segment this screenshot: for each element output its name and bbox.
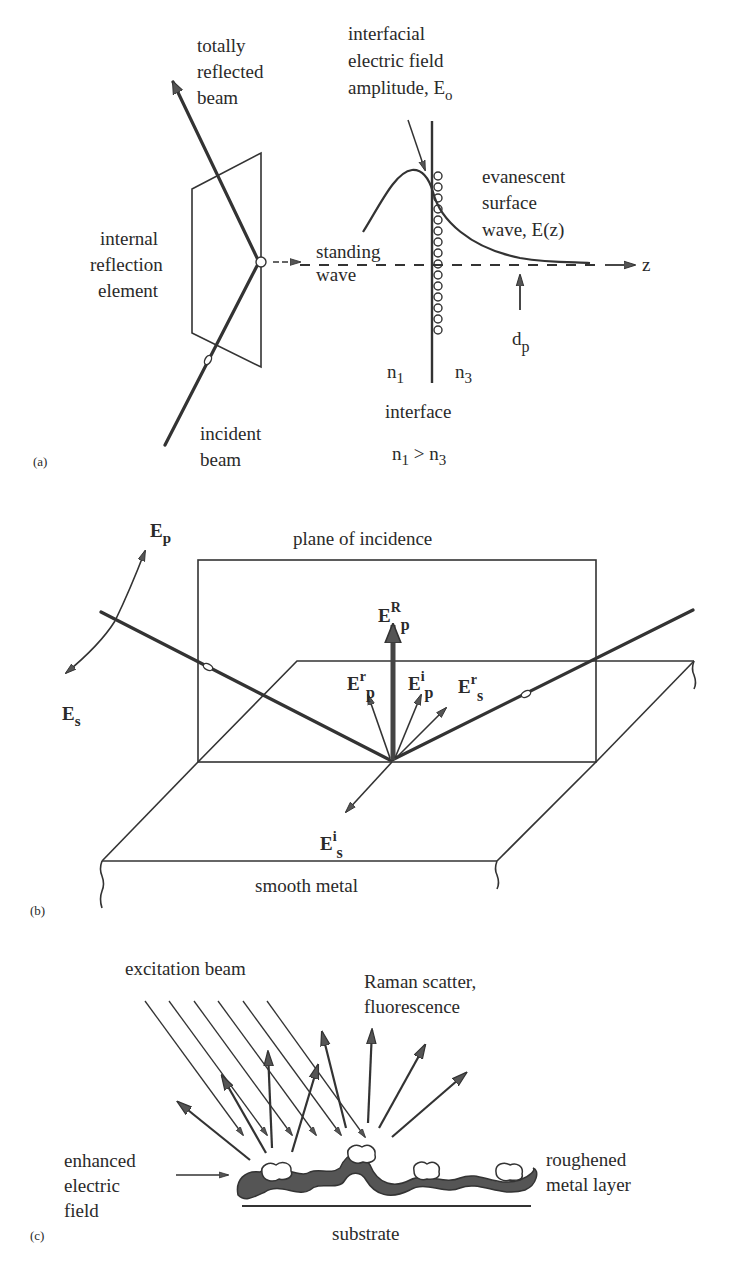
label-Erp: Erp bbox=[347, 669, 375, 702]
metal-surface-top bbox=[198, 661, 694, 762]
Eis-arrow bbox=[346, 762, 392, 812]
Es-arrow bbox=[66, 621, 115, 673]
metal-bump-4 bbox=[496, 1163, 522, 1180]
label-raman-2: fluorescence bbox=[364, 996, 460, 1017]
label-reflected-beam-2: reflected bbox=[197, 61, 264, 82]
label-Es: Es bbox=[62, 703, 81, 729]
label-interfacial-3: amplitude, Eo bbox=[348, 77, 453, 103]
label-substrate: substrate bbox=[332, 1223, 400, 1244]
panel-tag-a: (a) bbox=[33, 454, 47, 469]
label-enhanced-field: enhanced bbox=[64, 1150, 136, 1171]
label-interfacial: interfacial bbox=[348, 23, 425, 44]
scattered-light-arrows bbox=[178, 1030, 466, 1160]
label-standing-wave: standing bbox=[316, 241, 381, 262]
label-roughened-metal: roughened bbox=[546, 1149, 627, 1170]
label-ire-3: element bbox=[98, 280, 159, 301]
label-evanescent: evanescent bbox=[482, 166, 566, 187]
label-reflected-beam: totally bbox=[197, 35, 246, 56]
panel-tag-c: (c) bbox=[30, 1228, 44, 1243]
incident-beam bbox=[165, 262, 259, 445]
label-dp: dp bbox=[512, 328, 530, 356]
label-roughened-metal-2: metal layer bbox=[546, 1174, 632, 1195]
label-excitation-beam: excitation beam bbox=[125, 958, 246, 979]
label-enhanced-field-2: electric bbox=[64, 1175, 120, 1196]
incident-beam-b-marker bbox=[202, 662, 214, 672]
metal-surface-right-back bbox=[596, 661, 694, 762]
reflected-beam bbox=[173, 82, 259, 262]
Erp-arrow bbox=[368, 695, 390, 758]
label-smooth-metal: smooth metal bbox=[255, 875, 358, 896]
label-ire-2: reflection bbox=[90, 254, 163, 275]
label-enhanced-field-3: field bbox=[64, 1200, 99, 1221]
label-standing-wave-2: wave bbox=[316, 264, 356, 285]
label-z-axis: z bbox=[642, 254, 650, 275]
label-n1: n1 bbox=[387, 361, 404, 386]
reflection-point bbox=[256, 257, 266, 267]
label-evanescent-2: surface bbox=[482, 192, 537, 213]
metal-bump-1 bbox=[262, 1163, 292, 1181]
incident-beam-marker bbox=[203, 354, 213, 366]
label-interface: interface bbox=[385, 401, 451, 422]
label-Eis: Eis bbox=[320, 829, 343, 861]
label-condition: n1 > n3 bbox=[392, 443, 446, 468]
label-ire: internal bbox=[100, 228, 158, 249]
metal-cut-left bbox=[101, 861, 104, 908]
Ers-arrow bbox=[396, 708, 446, 758]
panel-tag-b: (b) bbox=[30, 903, 45, 918]
label-evanescent-3: wave, E(z) bbox=[482, 219, 564, 241]
panel-b: plane of incidence Ep Es ERp Erp Eip Ers… bbox=[30, 520, 696, 918]
label-Ers: Ers bbox=[458, 672, 483, 704]
metal-bump-3 bbox=[414, 1162, 440, 1179]
metal-surface-right bbox=[497, 762, 596, 861]
figure: totally reflected beam internal reflecti… bbox=[0, 0, 731, 1264]
interfacial-pointer-arrow bbox=[408, 120, 425, 170]
label-n3: n3 bbox=[455, 361, 472, 386]
metal-surface-left bbox=[102, 762, 198, 861]
Ep-arrow bbox=[115, 551, 145, 621]
panel-c: excitation beam Raman scatter, fluoresce… bbox=[30, 958, 632, 1244]
label-reflected-beam-3: beam bbox=[197, 87, 238, 108]
label-incident-beam-2: beam bbox=[200, 449, 241, 470]
reflected-beam-b bbox=[392, 610, 693, 760]
label-raman: Raman scatter, bbox=[364, 971, 476, 992]
label-incident-beam: incident bbox=[200, 423, 262, 444]
panel-a: totally reflected beam internal reflecti… bbox=[33, 23, 650, 470]
label-plane-of-incidence: plane of incidence bbox=[293, 528, 432, 549]
metal-bump-2 bbox=[348, 1145, 376, 1163]
internal-reflection-element bbox=[192, 153, 261, 367]
reflected-beam-b-marker bbox=[520, 689, 532, 699]
metal-cut-right bbox=[693, 661, 696, 689]
metal-cut-mid bbox=[496, 861, 499, 889]
label-interfacial-2: electric field bbox=[348, 50, 444, 71]
label-Ep: Ep bbox=[150, 520, 171, 546]
